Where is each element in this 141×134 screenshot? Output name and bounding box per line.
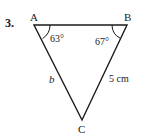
vertex-label-b: B: [124, 11, 131, 23]
angle-label-b: 67°: [95, 36, 109, 47]
angle-arc-a: [43, 25, 51, 39]
angle-arc-b: [112, 25, 120, 38]
vertex-label-a: A: [30, 11, 38, 23]
triangle-diagram: 3. A B C 63° 67° b 5 cm: [0, 0, 141, 134]
vertex-label-c: C: [78, 123, 85, 134]
side-label-b: b: [49, 73, 55, 85]
side-label-bc: 5 cm: [109, 73, 129, 84]
problem-number: 3.: [5, 16, 14, 30]
angle-label-a: 63°: [50, 33, 64, 44]
